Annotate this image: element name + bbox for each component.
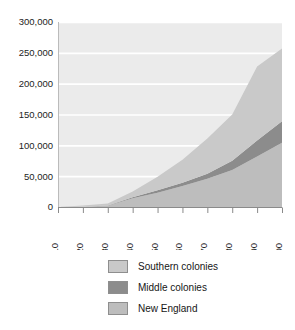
legend-label-middle-colonies: Middle colonies [138,282,207,294]
x-axis-tick-label: 1610 [49,243,60,250]
y-axis-tick-label: 250,000 [19,47,53,58]
x-axis-tick-labels: 1610162016301640165016601670168016901700 [49,243,284,250]
legend-item-southern-colonies[interactable]: Southern colonies [108,256,288,277]
legend-swatch-southern-colonies [108,260,128,273]
x-axis-tick-label: 1640 [124,243,135,250]
legend-item-new-england[interactable]: New England [108,298,288,319]
y-axis-tick-label: 300,000 [19,16,53,27]
x-axis-tick-label: 1670 [198,243,209,250]
chart-legend: Southern colonies Middle colonies New En… [108,256,288,319]
x-axis-tick-label: 1620 [74,243,85,250]
x-axis-ticks [59,208,283,214]
plot-area-container: 050,000100,000150,000200,000250,000300,0… [0,0,295,250]
legend-label-southern-colonies: Southern colonies [138,261,218,273]
legend-swatch-new-england [108,302,128,315]
legend-item-middle-colonies[interactable]: Middle colonies [108,277,288,298]
y-axis-tick-label: 0 [48,201,53,212]
y-axis-tick-label: 200,000 [19,78,53,89]
x-axis-tick-label: 1700 [273,243,284,250]
legend-swatch-middle-colonies [108,281,128,294]
y-axis-tick-label: 150,000 [19,109,53,120]
x-axis-tick-label: 1680 [223,243,234,250]
y-axis-tick-labels: 050,000100,000150,000200,000250,000300,0… [19,16,53,212]
y-axis-tick-label: 50,000 [24,171,53,182]
stacked-area-chart: 050,000100,000150,000200,000250,000300,0… [0,0,295,330]
x-axis-tick-label: 1650 [149,243,160,250]
y-axis-tick-label: 100,000 [19,140,53,151]
x-axis-tick-label: 1660 [173,243,184,250]
x-axis-tick-label: 1690 [248,243,259,250]
legend-label-new-england: New England [138,303,197,315]
chart-svg: 050,000100,000150,000200,000250,000300,0… [0,0,295,250]
x-axis-tick-label: 1630 [99,243,110,250]
